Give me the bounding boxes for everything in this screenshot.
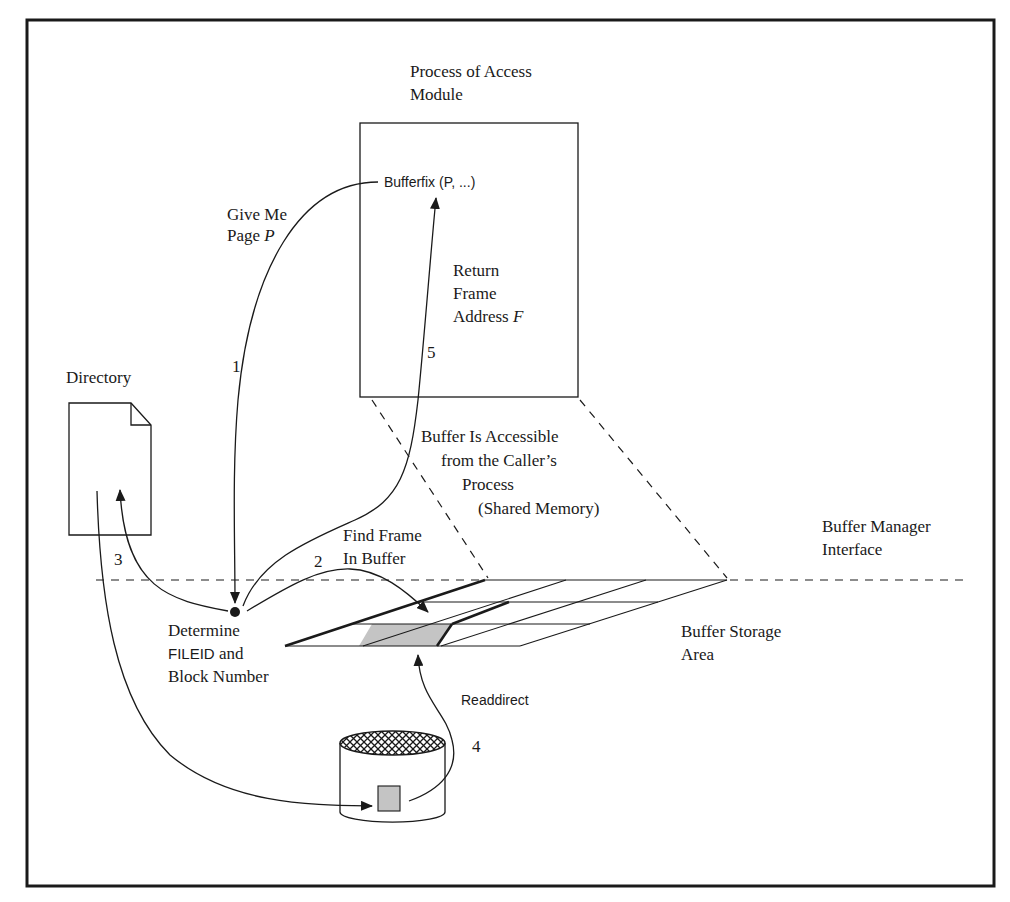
storage-label-line2: Area [681,645,714,664]
find-frame-label-line2: In Buffer [343,549,406,568]
buffer-manager-diagram: Process of Access Module Bufferfix (P, .… [0,0,1010,902]
disk-block [378,786,400,811]
step-4-label: 4 [472,737,481,756]
disk-cylinder-icon [340,731,445,822]
process-box [360,123,578,397]
return-label-line3: Address F [453,307,524,326]
step-5-label: 5 [427,343,436,362]
determine-node-dot [230,607,240,617]
accessible-label-line2: from the Caller’s [441,451,557,470]
directory-document-icon [69,403,151,535]
determine-label-line1: Determine [168,621,240,640]
accessible-label-line3: Process [462,475,514,494]
bm-interface-label-line1: Buffer Manager [822,517,931,536]
process-title-line1: Process of Access [410,62,532,81]
storage-label-line1: Buffer Storage [681,622,781,641]
projection-line-right [580,400,727,578]
arrow-4-readdirect [409,655,454,801]
accessible-label-line4: (Shared Memory) [478,499,599,518]
arrow-2-find-frame [247,569,428,612]
find-frame-label-line1: Find Frame [343,526,422,545]
process-title-line2: Module [410,85,463,104]
step-3-label: 3 [114,550,123,569]
bm-interface-label-line2: Interface [822,540,882,559]
determine-label-line3: Block Number [168,667,269,686]
step-2-label: 2 [314,552,323,571]
give-me-label-line1: Give Me [227,205,287,224]
give-me-label-line2: Page P [227,226,275,245]
arrow-3-directory-lookup [120,490,228,611]
return-label-line2: Frame [453,284,496,303]
return-label-line1: Return [453,261,500,280]
determine-label-line2: FILEID and [168,644,244,663]
bufferfix-call: Bufferfix (P, ...) [384,174,475,190]
buffer-storage-grid [285,580,727,646]
step-1-label: 1 [232,357,241,376]
readdirect-label: Readdirect [461,692,529,708]
accessible-label-line1: Buffer Is Accessible [421,427,559,446]
directory-label: Directory [66,368,132,387]
